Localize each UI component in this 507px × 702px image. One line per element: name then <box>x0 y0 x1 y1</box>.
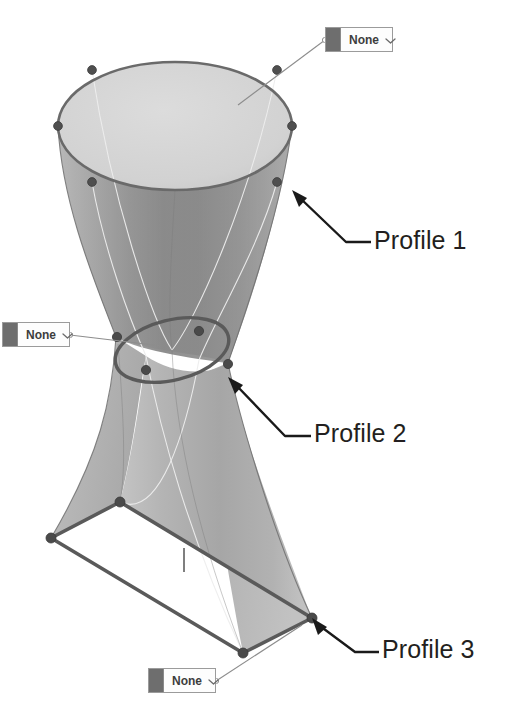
dropdown-body[interactable]: None <box>18 323 69 346</box>
chevron-down-icon[interactable] <box>62 326 73 344</box>
dropdown-body[interactable]: None <box>341 28 392 51</box>
dropdown-value: None <box>26 329 56 341</box>
arrow-profile-1 <box>292 190 371 242</box>
loft-body <box>51 62 312 653</box>
vertex <box>88 178 97 187</box>
dropdown-value: None <box>172 675 202 687</box>
vertex <box>288 122 297 131</box>
chevron-down-icon[interactable] <box>208 672 219 690</box>
vertex <box>46 533 56 543</box>
annotation-label-profile-3: Profile 3 <box>382 637 475 662</box>
vertex <box>194 326 203 335</box>
arrow-profile-3 <box>312 618 379 652</box>
drag-handle[interactable] <box>326 28 341 51</box>
cad-viewport[interactable]: Profile 1 Profile 2 Profile 3 None None <box>0 0 507 702</box>
loft-surface-model[interactable] <box>0 0 507 702</box>
dropdown-body[interactable]: None <box>164 669 215 692</box>
vertex <box>141 365 150 374</box>
drag-handle[interactable] <box>149 669 164 692</box>
annotation-label-profile-1: Profile 1 <box>374 228 467 253</box>
drag-handle[interactable] <box>3 323 18 346</box>
vertex <box>115 497 125 507</box>
vertex <box>223 359 232 368</box>
annotation-label-profile-2: Profile 2 <box>314 421 407 446</box>
vertex <box>88 66 97 75</box>
dropdown-value: None <box>349 34 379 46</box>
profile-1-selection-dropdown[interactable]: None <box>325 27 393 52</box>
vertex <box>273 178 282 187</box>
chevron-down-icon[interactable] <box>385 31 396 49</box>
connector-profile-1 <box>238 40 325 105</box>
profile-3-selection-dropdown[interactable]: None <box>148 668 216 693</box>
surface-lower-front <box>120 356 312 618</box>
vertex <box>54 122 63 131</box>
profile-2-selection-dropdown[interactable]: None <box>2 322 70 347</box>
vertex <box>238 648 248 658</box>
